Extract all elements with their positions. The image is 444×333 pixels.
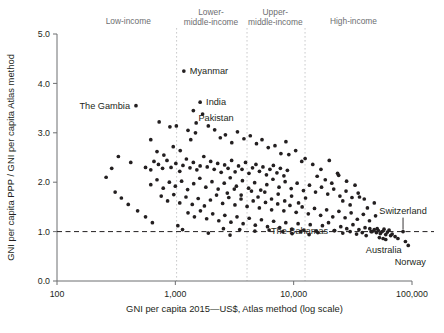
data-point bbox=[181, 228, 185, 232]
data-point bbox=[331, 215, 335, 219]
x-tick-label: 100,000 bbox=[396, 289, 428, 299]
data-point bbox=[313, 207, 317, 211]
data-point bbox=[314, 190, 318, 194]
data-point bbox=[247, 186, 251, 190]
data-point bbox=[272, 164, 276, 168]
data-point bbox=[357, 228, 361, 232]
income-group-label: Lower- bbox=[198, 7, 224, 17]
y-tick-label: 3.0 bbox=[38, 128, 50, 138]
data-point bbox=[304, 196, 308, 200]
data-point bbox=[192, 109, 196, 113]
data-point bbox=[259, 188, 263, 192]
data-point bbox=[368, 227, 372, 231]
data-point bbox=[348, 230, 352, 234]
data-point bbox=[180, 179, 184, 183]
data-point bbox=[368, 219, 372, 223]
data-point bbox=[251, 166, 255, 170]
data-point bbox=[356, 191, 360, 195]
data-point bbox=[247, 216, 251, 220]
data-point bbox=[270, 197, 274, 201]
data-point bbox=[110, 167, 114, 171]
data-point bbox=[178, 201, 182, 205]
data-point bbox=[144, 215, 148, 219]
data-point bbox=[216, 187, 220, 191]
annotation-label: The Gambia bbox=[79, 101, 130, 111]
annotation-label: Myanmar bbox=[190, 66, 228, 76]
data-point bbox=[157, 120, 161, 124]
data-point bbox=[338, 194, 342, 198]
data-point bbox=[171, 145, 175, 149]
annotation-label: Pakistan bbox=[198, 113, 233, 123]
data-point bbox=[343, 216, 347, 220]
data-point bbox=[266, 225, 270, 229]
data-point bbox=[306, 212, 310, 216]
data-point bbox=[341, 231, 345, 235]
data-point bbox=[362, 212, 366, 216]
x-tick-label: 1,000 bbox=[164, 289, 186, 299]
data-point bbox=[193, 215, 197, 219]
data-point bbox=[363, 226, 367, 230]
data-point bbox=[225, 191, 229, 195]
y-tick-label: 0.0 bbox=[38, 276, 50, 286]
data-point bbox=[230, 141, 234, 145]
x-axis-title: GNI per capita 2015—US$, Atlas method (l… bbox=[126, 303, 343, 314]
data-point bbox=[255, 142, 259, 146]
data-point bbox=[366, 206, 370, 210]
data-point bbox=[260, 138, 264, 142]
data-point bbox=[271, 177, 275, 181]
data-point bbox=[186, 188, 190, 192]
data-point bbox=[406, 244, 410, 248]
data-point bbox=[235, 215, 239, 219]
data-point bbox=[192, 182, 196, 186]
data-point bbox=[126, 203, 130, 207]
data-point bbox=[167, 180, 171, 184]
data-point bbox=[248, 134, 252, 138]
data-point bbox=[258, 206, 262, 210]
data-point bbox=[372, 228, 376, 232]
data-point bbox=[355, 232, 359, 236]
data-point bbox=[360, 231, 364, 235]
data-point bbox=[186, 128, 190, 132]
data-point bbox=[227, 196, 231, 200]
data-point bbox=[265, 183, 269, 187]
data-point bbox=[276, 192, 280, 196]
data-point bbox=[169, 166, 173, 170]
income-group-labels: Low-incomeLower-middle-incomeUpper-middl… bbox=[106, 7, 378, 27]
data-point bbox=[372, 201, 376, 205]
data-point bbox=[165, 159, 169, 163]
data-point bbox=[178, 169, 182, 173]
data-point bbox=[323, 178, 327, 182]
data-point bbox=[215, 193, 219, 197]
data-point bbox=[284, 221, 288, 225]
data-point bbox=[345, 179, 349, 183]
data-point bbox=[297, 201, 301, 205]
data-point bbox=[213, 128, 217, 132]
data-point bbox=[209, 160, 213, 164]
data-point bbox=[254, 163, 258, 167]
data-point bbox=[327, 159, 331, 163]
data-point bbox=[181, 164, 185, 168]
data-point bbox=[327, 221, 331, 225]
x-tick-label: 100 bbox=[50, 289, 65, 299]
data-point bbox=[247, 171, 251, 175]
data-point bbox=[144, 166, 148, 170]
data-point bbox=[205, 165, 209, 169]
data-point bbox=[236, 130, 240, 134]
data-point bbox=[205, 217, 209, 221]
data-point bbox=[263, 190, 267, 194]
data-point bbox=[212, 168, 216, 172]
data-point bbox=[290, 194, 294, 198]
data-point bbox=[284, 140, 288, 144]
data-point bbox=[157, 163, 161, 167]
data-point bbox=[223, 213, 227, 217]
data-point bbox=[195, 168, 199, 172]
data-point bbox=[351, 223, 355, 227]
y-axis-title: GNI per capita PPP / GNI per capita Atla… bbox=[5, 54, 16, 261]
data-point bbox=[232, 187, 236, 191]
data-point bbox=[189, 138, 193, 142]
data-point bbox=[198, 176, 202, 180]
data-point bbox=[344, 189, 348, 193]
data-point bbox=[273, 144, 277, 148]
data-point bbox=[204, 185, 208, 189]
x-axis-ticks: 1001,00010,000100,000 bbox=[50, 281, 428, 299]
